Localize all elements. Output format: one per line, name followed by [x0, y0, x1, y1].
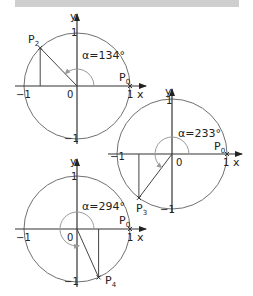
angle-label: α=294° [82, 200, 125, 213]
angle-label: α=233° [178, 127, 221, 140]
tick-y-neg: −1 [64, 133, 79, 144]
point-p2-label: P2 [28, 33, 39, 48]
y-axis-label: y [70, 155, 77, 168]
origin-label: 0 [67, 232, 73, 243]
origin-label: 0 [67, 89, 73, 100]
tick-y-neg: −1 [64, 276, 79, 287]
tick-x-pos: 1 [127, 232, 133, 243]
tick-y-pos: 1 [71, 171, 77, 182]
tick-x-neg: −1 [16, 232, 31, 243]
tick-x-pos: 1 [127, 89, 133, 100]
point-p4-label: P4 [105, 274, 117, 289]
angle-label: α=134° [82, 49, 125, 62]
diagram-p4: P4 P0 α=294° y x 0 1 1 −1 −1 [15, 155, 146, 289]
tick-y-pos: 1 [166, 95, 172, 106]
x-axis-label: x [137, 88, 144, 101]
unit-circle-diagrams: P2 P0 α=134° y x 0 1 1 −1 −1 P3 P0 α=233… [0, 0, 253, 296]
tick-y-pos: 1 [71, 27, 77, 38]
point-p0-label: P0 [214, 140, 225, 155]
radius-line [77, 229, 99, 277]
x-axis-label: x [137, 231, 144, 244]
diagram-p3: P3 P0 α=233° y x 0 1 1 −1 −1 [108, 85, 242, 217]
angle-arc [65, 69, 94, 86]
tick-y-neg: −1 [160, 204, 175, 215]
radius-line [139, 154, 172, 198]
tick-x-neg: −1 [16, 89, 31, 100]
point-p3-label: P3 [136, 202, 147, 217]
radius-line [40, 48, 77, 86]
x-axis-label: x [233, 156, 240, 169]
origin-label: 0 [176, 157, 182, 168]
tick-x-neg: −1 [110, 151, 125, 162]
tick-x-pos: 1 [223, 157, 229, 168]
y-axis-label: y [70, 10, 77, 23]
